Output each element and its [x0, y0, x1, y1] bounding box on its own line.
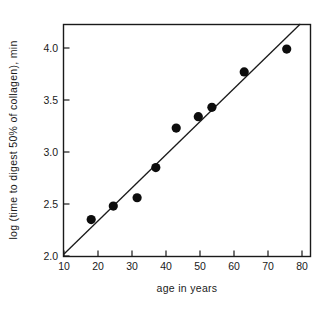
x-tick-label: 40 — [160, 260, 172, 272]
x-tick-label: 50 — [194, 260, 206, 272]
data-point — [240, 67, 249, 76]
data-point — [133, 193, 142, 202]
data-point — [109, 201, 118, 210]
data-point — [87, 215, 96, 224]
x-tick-label: 30 — [126, 260, 138, 272]
y-axis-title: log (time to digest 50% of collagen), mi… — [7, 40, 19, 239]
data-point — [151, 163, 160, 172]
y-tick-label: 3.0 — [43, 146, 58, 158]
data-point — [194, 112, 203, 121]
x-tick-label: 80 — [296, 260, 308, 272]
x-tick-label: 70 — [262, 260, 274, 272]
y-tick-label: 2.0 — [43, 250, 58, 262]
x-axis-title: age in years — [157, 282, 218, 294]
x-tick-label: 60 — [228, 260, 240, 272]
data-point — [172, 123, 181, 132]
x-tick-label: 20 — [92, 260, 104, 272]
scatter-plot-figure: 1020304050607080 2.02.53.03.54.0 age in … — [0, 0, 326, 316]
y-tick-label: 4.0 — [43, 42, 58, 54]
x-tick-label: 10 — [58, 260, 70, 272]
data-point — [282, 44, 291, 53]
data-point — [207, 103, 216, 112]
y-tick-label: 2.5 — [43, 198, 58, 210]
y-tick-label: 3.5 — [43, 94, 58, 106]
